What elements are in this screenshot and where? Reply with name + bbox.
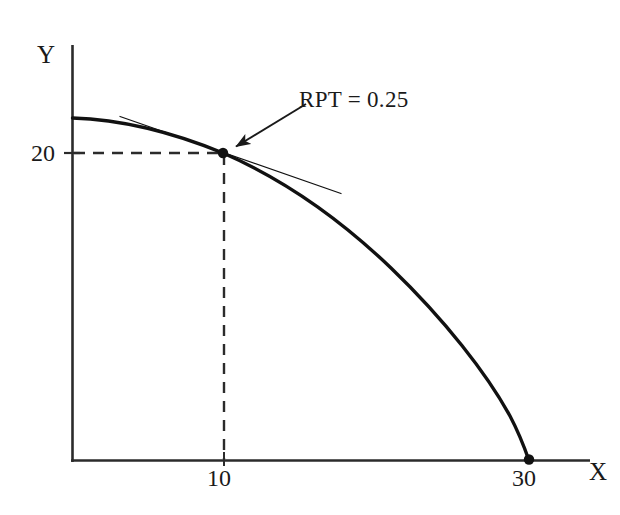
ppf-plot-area	[0, 0, 620, 515]
tangency-point-marker	[218, 148, 228, 158]
ppf-curve	[73, 118, 530, 461]
x-intercept-point-marker	[524, 454, 534, 464]
rpt-annotation-label: RPT = 0.25	[299, 88, 409, 111]
ppf-figure: Y X 20 10 30 RPT = 0.25	[0, 0, 620, 515]
x-tick-label-10: 10	[207, 466, 231, 490]
y-axis-label: Y	[37, 42, 55, 67]
x-tick-label-30: 30	[512, 466, 536, 490]
x-axis-label: X	[589, 459, 607, 484]
y-tick-label-20: 20	[31, 141, 55, 165]
rpt-arrow	[236, 104, 306, 147]
